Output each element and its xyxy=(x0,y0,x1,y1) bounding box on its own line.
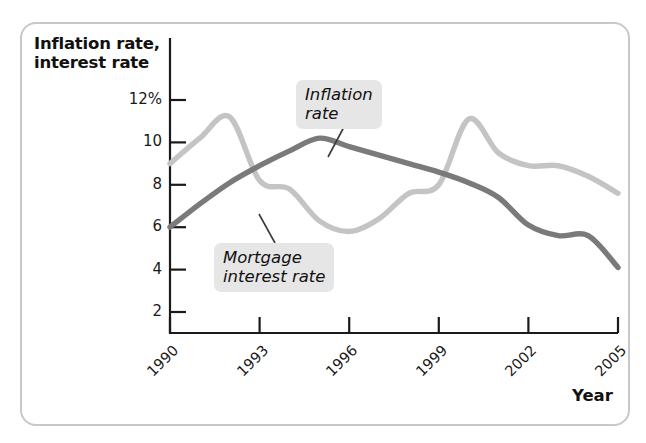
y-tick-label: 6 xyxy=(102,217,162,235)
y-tick-label: 8 xyxy=(102,175,162,193)
y-tick-label: 4 xyxy=(102,260,162,278)
y-tick-label: 10 xyxy=(102,132,162,150)
y-tick-label: 2 xyxy=(102,302,162,320)
series-line-mortgage-interest-rate xyxy=(170,116,618,232)
x-tick-marks xyxy=(170,317,618,333)
callout-mortgage-interest-rate: Mortgage interest rate xyxy=(214,243,334,292)
y-tick-label: 12% xyxy=(102,90,162,108)
y-tick-marks xyxy=(170,100,186,312)
callout-inflation-rate: Inflation rate xyxy=(296,80,382,129)
